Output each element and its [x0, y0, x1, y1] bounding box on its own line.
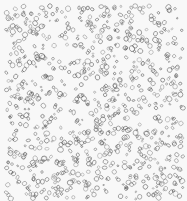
bubble-texture-image	[0, 0, 187, 201]
